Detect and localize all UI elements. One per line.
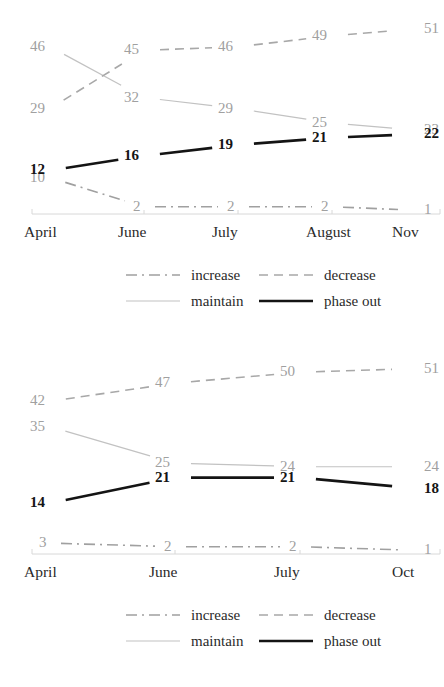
data-label-maintain: 25	[155, 455, 170, 470]
series-line-increase	[65, 182, 125, 200]
legend-row: increasedecrease	[0, 602, 444, 628]
legend-label: increase	[191, 268, 240, 283]
legend-item-decrease[interactable]: decrease	[258, 262, 376, 288]
x-tick-label: July	[212, 224, 238, 240]
legend-item-maintain[interactable]: maintain	[125, 288, 244, 314]
data-label-increase: 3	[39, 535, 47, 550]
data-label-increase: 1	[424, 202, 432, 217]
x-tick-label: June	[118, 224, 146, 240]
chart-2: 3221352524244247505114212118 AprilJuneJu…	[0, 340, 444, 687]
chart-2-x-axis-labels: AprilJuneJulyOct	[0, 564, 444, 588]
series-line-maintain	[160, 99, 212, 105]
chart-1-legend: increasedecreasemaintainphase out	[0, 262, 444, 314]
legend-line-icon	[258, 268, 314, 282]
data-label-phase-out: 21	[155, 470, 170, 485]
data-label-maintain: 32	[124, 90, 139, 105]
legend-item-increase[interactable]: increase	[125, 602, 240, 628]
data-label-maintain: 25	[312, 115, 327, 130]
data-label-phase-out: 14	[30, 495, 45, 510]
data-label-decrease: 46	[218, 39, 233, 54]
data-label-phase-out: 16	[124, 148, 139, 163]
x-tick-label: August	[306, 224, 351, 240]
data-label-phase-out: 22	[424, 126, 439, 141]
series-line-phase-out	[254, 140, 306, 144]
series-line-phase-out	[348, 135, 392, 137]
legend-item-decrease[interactable]: decrease	[258, 602, 376, 628]
data-label-decrease: 51	[424, 361, 439, 376]
chart-1: 102221463229252329454649511216192122 Apr…	[0, 0, 444, 340]
legend-item-phase-out[interactable]: phase out	[258, 628, 381, 654]
legend-label: decrease	[324, 608, 376, 623]
series-line-decrease	[348, 31, 392, 35]
legend-label: phase out	[324, 294, 381, 309]
x-tick-label: April	[24, 224, 57, 240]
series-line-decrease	[160, 48, 212, 50]
series-line-increase	[343, 207, 398, 209]
data-label-increase: 2	[227, 199, 235, 214]
chart-1-x-axis-labels: AprilJuneJulyAugustNov	[0, 224, 444, 248]
legend-label: increase	[191, 608, 240, 623]
legend-line-icon	[125, 634, 181, 648]
chart-2-legend: increasedecreasemaintainphase out	[0, 602, 444, 654]
series-line-maintain	[254, 111, 307, 119]
series-line-maintain	[191, 464, 274, 466]
legend-item-maintain[interactable]: maintain	[125, 628, 244, 654]
series-line-phase-out	[66, 160, 119, 168]
legend-line-icon	[125, 608, 181, 622]
series-line-increase	[311, 547, 398, 550]
data-label-phase-out: 18	[424, 481, 439, 496]
series-line-decrease	[316, 369, 392, 371]
x-axis-line	[32, 209, 440, 214]
legend-label: decrease	[324, 268, 376, 283]
series-line-decrease	[191, 374, 274, 381]
data-label-increase: 2	[321, 199, 329, 214]
chart-2-svg	[0, 340, 444, 562]
x-axis-line	[32, 549, 440, 554]
data-label-increase: 1	[424, 542, 432, 557]
legend-line-icon	[125, 294, 181, 308]
data-label-decrease: 29	[30, 101, 45, 116]
data-label-phase-out: 21	[312, 130, 327, 145]
legend-line-icon	[125, 268, 181, 282]
legend-row: increasedecrease	[0, 262, 444, 288]
x-tick-label: April	[24, 564, 57, 580]
data-label-increase: 2	[164, 539, 172, 554]
x-tick-label: June	[149, 564, 177, 580]
data-label-maintain: 35	[30, 419, 45, 434]
series-line-maintain	[348, 124, 392, 128]
legend-item-increase[interactable]: increase	[125, 262, 240, 288]
legend-line-icon	[258, 294, 314, 308]
data-label-maintain: 46	[30, 39, 45, 54]
series-line-decrease	[254, 39, 306, 45]
legend-row: maintainphase out	[0, 288, 444, 314]
data-label-decrease: 51	[424, 21, 439, 36]
data-label-phase-out: 12	[30, 162, 45, 177]
legend-label: maintain	[191, 634, 244, 649]
data-label-decrease: 49	[312, 28, 327, 43]
data-label-maintain: 29	[218, 101, 233, 116]
data-label-phase-out: 19	[218, 137, 233, 152]
series-line-maintain	[64, 54, 121, 85]
series-line-increase	[61, 543, 155, 546]
series-line-phase-out	[316, 479, 392, 486]
chart-2-plot-area: 3221352524244247505114212118	[0, 340, 444, 562]
legend-line-icon	[258, 634, 314, 648]
data-label-increase: 2	[289, 539, 297, 554]
legend-label: maintain	[191, 294, 244, 309]
x-tick-label: Oct	[392, 564, 414, 580]
series-line-phase-out	[66, 483, 150, 500]
legend-line-icon	[258, 608, 314, 622]
series-line-phase-out	[160, 148, 212, 154]
series-line-maintain	[65, 431, 150, 456]
data-label-decrease: 47	[155, 375, 170, 390]
figure-page: 102221463229252329454649511216192122 Apr…	[0, 0, 444, 687]
series-line-decrease	[66, 387, 149, 399]
legend-item-phase-out[interactable]: phase out	[258, 288, 381, 314]
data-label-maintain: 24	[424, 459, 439, 474]
data-label-increase: 2	[133, 199, 141, 214]
x-tick-label: July	[274, 564, 300, 580]
data-label-decrease: 45	[124, 42, 139, 57]
data-label-decrease: 50	[280, 364, 295, 379]
legend-row: maintainphase out	[0, 628, 444, 654]
chart-1-plot-area: 102221463229252329454649511216192122	[0, 0, 444, 222]
